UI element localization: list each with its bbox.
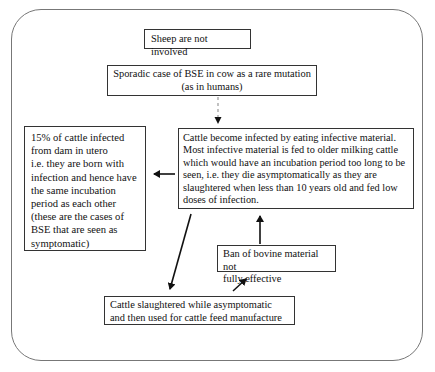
node-sheep-not-involved: Sheep are not involved bbox=[144, 29, 251, 49]
node-infected-by-eating: Cattle become infected by eating infecti… bbox=[178, 128, 414, 209]
node-ban-not-effective: Ban of bovine material not fully effecti… bbox=[217, 245, 336, 272]
node-slaughtered-asymptomatic: Cattle slaughtered while asymptomatic an… bbox=[104, 296, 295, 325]
node-in-utero-infection: 15% of cattle infected from dam in utero… bbox=[24, 126, 146, 251]
node-sporadic-case: Sporadic case of BSE in cow as a rare mu… bbox=[107, 65, 317, 96]
